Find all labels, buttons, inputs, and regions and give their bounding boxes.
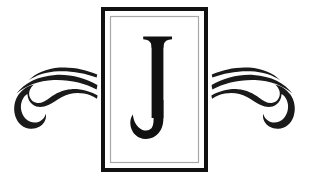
flourish-right: [211, 67, 294, 128]
monogram-artwork: J: [0, 0, 309, 187]
flourish-left-curl-stroke: [14, 84, 97, 128]
flourish-right-curl-stroke: [211, 84, 294, 128]
monogram-letter-group: J: [130, 18, 184, 171]
flourish-left: [14, 67, 97, 128]
monogram-canvas: J: [0, 0, 309, 187]
